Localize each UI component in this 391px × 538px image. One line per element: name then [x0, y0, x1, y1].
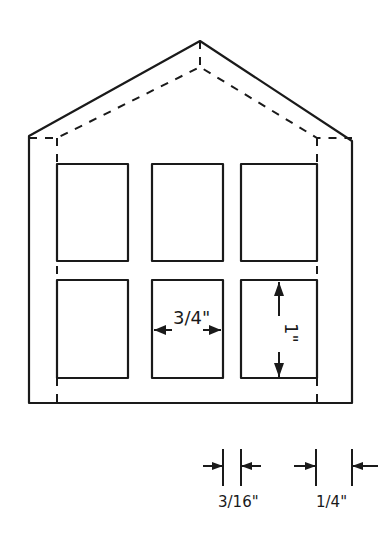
window-top-right	[241, 164, 317, 261]
window-height-label: 1"	[281, 323, 302, 343]
window-top-left	[57, 164, 128, 261]
arrow-down-icon	[274, 363, 284, 377]
inner-dashed-outline	[29, 41, 352, 403]
dim-small-label: 3/16"	[218, 493, 259, 511]
dim-quarter-label: 1/4"	[316, 493, 347, 511]
outer-outline	[29, 41, 352, 403]
arrow-right-icon	[305, 462, 316, 470]
window-top-middle	[152, 164, 223, 261]
dimension-legend-3-16: 3/16"	[203, 449, 261, 511]
house-front-drawing: 3/4" 1" 3/16" 1/4"	[0, 0, 391, 538]
arrow-left-icon	[154, 325, 166, 335]
arrow-right-icon	[209, 325, 221, 335]
dimension-window-height: 1"	[274, 282, 302, 377]
arrow-left-icon	[352, 462, 363, 470]
arrow-left-icon	[241, 462, 252, 470]
dimension-legend-1-4: 1/4"	[294, 449, 378, 511]
arrow-right-icon	[212, 462, 223, 470]
arrow-up-icon	[274, 282, 284, 296]
windows-grid	[57, 164, 317, 378]
window-bottom-left	[57, 280, 128, 378]
window-width-label: 3/4"	[173, 307, 210, 328]
dimension-window-width: 3/4"	[154, 307, 221, 335]
